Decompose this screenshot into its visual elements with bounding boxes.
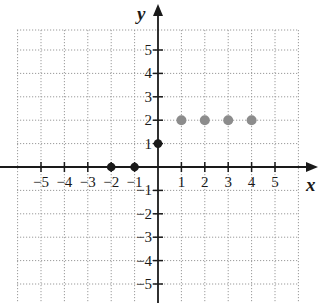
axes [0, 4, 318, 303]
x-axis-label: x [305, 174, 316, 195]
y-tick-label: 4 [145, 65, 153, 81]
y-tick-label: −5 [136, 276, 152, 292]
y-tick-label: 5 [145, 42, 153, 58]
data-point [176, 115, 186, 125]
y-tick-label: −1 [136, 182, 152, 198]
x-tick-label: −4 [56, 174, 72, 190]
x-tick-label: −3 [80, 174, 96, 190]
x-tick-label: −5 [33, 174, 49, 190]
y-tick-label: −4 [136, 253, 152, 269]
coordinate-plane: −5−4−3−2−11234554321−1−2−3−4−5 x y [0, 0, 319, 303]
y-axis-label: y [135, 3, 146, 24]
x-tick-label: 1 [178, 174, 186, 190]
x-tick-label: 3 [224, 174, 232, 190]
y-tick-label: 2 [145, 112, 153, 128]
x-tick-label: 4 [248, 174, 256, 190]
y-tick-label: 3 [145, 89, 153, 105]
data-point [247, 115, 257, 125]
data-point [107, 163, 116, 172]
data-point [223, 115, 233, 125]
data-point [154, 139, 163, 148]
y-tick-label: −2 [136, 206, 152, 222]
x-tick-label: 5 [271, 174, 279, 190]
y-tick-label: 1 [145, 136, 153, 152]
data-point [200, 115, 210, 125]
x-tick-label: 2 [201, 174, 209, 190]
x-axis-arrow-icon [306, 162, 318, 172]
data-point [130, 163, 139, 172]
y-tick-label: −3 [136, 229, 152, 245]
y-axis-arrow-icon [153, 4, 163, 16]
x-tick-label: −2 [103, 174, 119, 190]
